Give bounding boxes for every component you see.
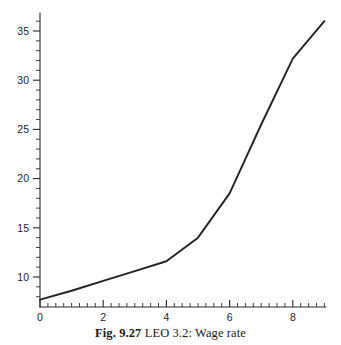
x-axis-tick-label: 0 bbox=[37, 311, 43, 323]
figure-container: 101520253035 02468 Fig. 9.27 LEO 3.2: Wa… bbox=[0, 0, 341, 345]
y-axis-tick-label: 15 bbox=[17, 222, 29, 234]
x-axis bbox=[40, 300, 326, 307]
y-axis-tick-label: 20 bbox=[17, 172, 29, 184]
x-axis-tick-labels: 02468 bbox=[37, 311, 296, 323]
data-series-line-wage-rate bbox=[40, 21, 324, 299]
chart-plot-area: 101520253035 02468 bbox=[0, 0, 341, 345]
y-axis bbox=[33, 13, 40, 307]
x-axis-tick-label: 6 bbox=[227, 311, 233, 323]
x-axis-tick-label: 2 bbox=[100, 311, 106, 323]
y-axis-tick-label: 30 bbox=[17, 74, 29, 86]
y-axis-tick-label: 10 bbox=[17, 271, 29, 283]
figure-caption-text: LEO 3.2: Wage rate bbox=[145, 326, 246, 340]
figure-caption: Fig. 9.27 LEO 3.2: Wage rate bbox=[0, 326, 341, 341]
x-axis-tick-label: 8 bbox=[290, 311, 296, 323]
y-axis-tick-label: 35 bbox=[17, 25, 29, 37]
x-axis-tick-label: 4 bbox=[163, 311, 169, 323]
y-axis-tick-labels: 101520253035 bbox=[17, 25, 29, 283]
y-axis-tick-label: 25 bbox=[17, 123, 29, 135]
figure-number: Fig. 9.27 bbox=[95, 326, 141, 340]
